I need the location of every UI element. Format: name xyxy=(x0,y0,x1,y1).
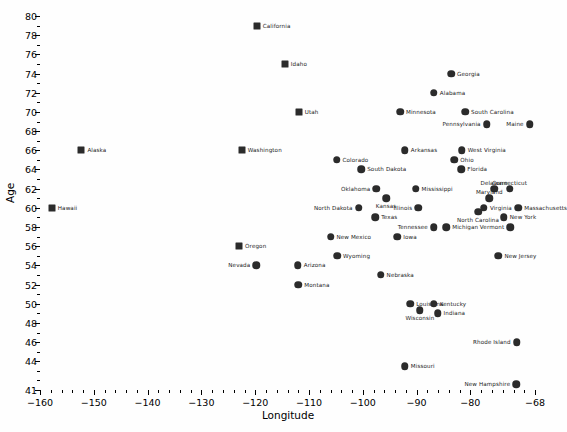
x-minor-tick xyxy=(180,390,181,393)
data-point[interactable] xyxy=(526,121,534,129)
x-minor-tick xyxy=(245,390,246,393)
data-point[interactable] xyxy=(355,204,363,212)
data-point-label: Oregon xyxy=(245,243,266,249)
x-tick-label: −80 xyxy=(460,397,480,408)
data-point[interactable] xyxy=(327,233,335,241)
x-tick-label: −110 xyxy=(296,397,322,408)
data-point[interactable] xyxy=(377,271,385,279)
data-point[interactable] xyxy=(357,166,365,174)
x-minor-tick xyxy=(320,390,321,393)
y-tick-label: 76 xyxy=(25,49,37,60)
data-point[interactable] xyxy=(78,147,85,154)
x-tick xyxy=(363,390,364,395)
data-point[interactable] xyxy=(236,243,243,250)
data-point[interactable] xyxy=(414,204,422,212)
y-tick-label: 74 xyxy=(25,68,37,79)
data-point-label: Nebraska xyxy=(387,272,414,278)
x-minor-tick xyxy=(266,390,267,393)
x-tick-label: −90 xyxy=(407,397,427,408)
data-point[interactable] xyxy=(401,147,409,155)
data-point[interactable] xyxy=(238,147,245,154)
data-point-label: Colorado xyxy=(343,157,369,163)
data-point[interactable] xyxy=(371,214,379,222)
x-minor-tick xyxy=(51,390,52,393)
data-point[interactable] xyxy=(451,156,459,164)
data-point[interactable] xyxy=(253,262,261,270)
data-point[interactable] xyxy=(434,310,442,318)
data-point[interactable] xyxy=(430,300,438,308)
data-point[interactable] xyxy=(281,60,288,67)
data-point-label: Wyoming xyxy=(343,253,370,259)
x-minor-tick xyxy=(492,390,493,393)
y-tick-label: 78 xyxy=(25,30,37,41)
data-point-label: Hawaii xyxy=(58,205,77,211)
x-minor-tick xyxy=(105,390,106,393)
data-point[interactable] xyxy=(294,262,302,270)
data-point-label: California xyxy=(263,23,291,29)
data-point[interactable] xyxy=(48,204,55,211)
x-tick xyxy=(255,390,256,395)
chart-figure: Age Longitude 41444648505254565860626466… xyxy=(0,0,567,432)
data-point[interactable] xyxy=(412,185,420,193)
data-point-label: Rhode Island xyxy=(473,339,511,345)
data-point[interactable] xyxy=(458,166,466,174)
x-tick xyxy=(201,390,202,395)
data-point[interactable] xyxy=(295,281,303,289)
y-tick-label: 66 xyxy=(25,145,37,156)
data-point-label: Alabama xyxy=(440,90,465,96)
data-point[interactable] xyxy=(474,208,482,216)
x-tick xyxy=(309,390,310,395)
data-point[interactable] xyxy=(500,214,508,222)
x-minor-tick xyxy=(524,390,525,393)
data-point[interactable] xyxy=(483,121,491,129)
data-point-label: Ohio xyxy=(460,157,473,163)
y-axis-line xyxy=(0,0,1,375)
data-point[interactable] xyxy=(396,108,404,116)
x-axis-title: Longitude xyxy=(262,409,314,421)
data-point[interactable] xyxy=(406,300,414,308)
x-minor-tick xyxy=(115,390,116,393)
data-point[interactable] xyxy=(495,252,503,260)
data-point[interactable] xyxy=(461,108,469,116)
data-point-label: Utah xyxy=(305,109,319,115)
data-point-label: South Carolina xyxy=(471,109,514,115)
data-point-label: Iowa xyxy=(403,234,417,240)
x-minor-tick xyxy=(83,390,84,393)
y-tick-label: 46 xyxy=(25,337,37,348)
data-point-label: North Carolina xyxy=(457,217,499,223)
data-point[interactable] xyxy=(515,204,523,212)
data-point[interactable] xyxy=(333,252,341,260)
data-point[interactable] xyxy=(447,70,455,78)
data-point[interactable] xyxy=(416,307,424,315)
data-point[interactable] xyxy=(513,338,521,346)
data-point[interactable] xyxy=(253,22,260,29)
x-minor-tick xyxy=(137,390,138,393)
y-tick-label: 60 xyxy=(25,202,37,213)
data-point[interactable] xyxy=(295,108,302,115)
data-point[interactable] xyxy=(333,156,341,164)
data-point-label: Minnesota xyxy=(406,109,436,115)
x-tick-label: −68 xyxy=(525,397,545,408)
data-point-label: Idaho xyxy=(291,61,307,67)
data-point[interactable] xyxy=(442,223,450,231)
data-point-label: Alaska xyxy=(87,147,106,153)
data-point[interactable] xyxy=(486,194,494,202)
data-point[interactable] xyxy=(430,223,438,231)
x-minor-tick xyxy=(438,390,439,393)
data-point[interactable] xyxy=(401,362,409,370)
x-minor-tick xyxy=(288,390,289,393)
data-point-label: Pennsylvania xyxy=(443,121,481,127)
x-tick xyxy=(417,390,418,395)
x-minor-tick xyxy=(514,390,515,393)
data-point[interactable] xyxy=(373,185,381,193)
data-point[interactable] xyxy=(506,185,514,193)
data-point[interactable] xyxy=(512,380,520,388)
data-point[interactable] xyxy=(458,147,466,155)
data-point[interactable] xyxy=(507,223,515,231)
data-point-label: Massachusetts xyxy=(524,205,567,211)
data-point[interactable] xyxy=(430,89,438,97)
data-point[interactable] xyxy=(394,233,402,241)
x-minor-tick xyxy=(234,390,235,393)
y-tick-label: 54 xyxy=(25,260,37,271)
data-point[interactable] xyxy=(382,194,390,202)
